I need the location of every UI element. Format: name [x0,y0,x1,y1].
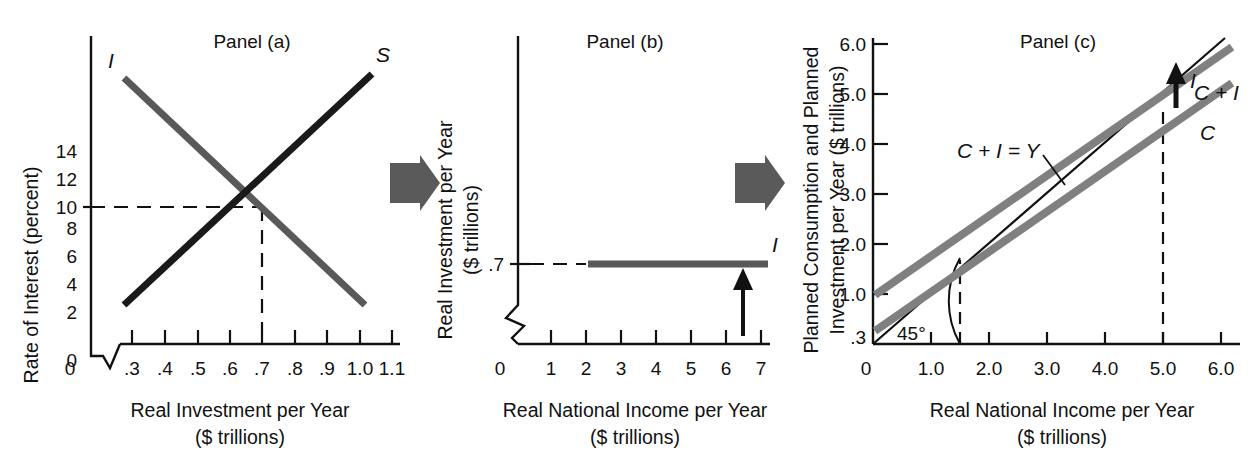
panel-b-axes [506,36,770,344]
panel-b-ytick-07: .7 [488,254,504,275]
panel-a-ytick-8: 8 [66,218,77,239]
panel-a-ytick-6: 6 [66,246,77,267]
panel-c-y-axis-title-line1: Planned Consumption and Planned [800,47,822,354]
panel-a-x-axis-title-line2: ($ trillions) [195,426,285,448]
panel-b-xtick-3: 3 [616,358,627,379]
panel-a-xtick-07: .7 [254,358,270,379]
panel-c-ytick-30: 3.0 [840,184,866,205]
panel-c-ytick-40: 4.0 [840,134,866,155]
panel-c-xtick-30: 3.0 [1034,358,1060,379]
panel-b-x-axis-title-line1: Real National Income per Year [503,399,768,421]
panel-a-title: Panel (a) [213,31,290,52]
panel-c-title: Panel (c) [1020,31,1096,52]
panel-a-ytick-10: 10 [56,197,77,218]
panel-a: Rate of Interest (percent) Panel (a) 0 2… [0,0,420,475]
panel-a-xtick-05: .5 [190,358,206,379]
panel-c-ytick-50: 5.0 [840,84,866,105]
panel-b-xtick-5: 5 [686,358,697,379]
panel-b-x-axis-title-line2: ($ trillions) [590,426,680,448]
panel-c-ci-curve-label: C + I [1194,81,1239,104]
panel-b-xtick-4: 4 [651,358,662,379]
panel-a-ytick-4: 4 [66,274,77,295]
panel-b-xtick-1: 1 [546,358,557,379]
panel-c-investment-gap-label: I [1190,69,1196,92]
panel-c: Planned Consumption and Planned Investme… [800,0,1256,475]
panel-b-xtick-2: 2 [581,358,592,379]
panel-a-saving-curve-label: S [376,43,390,66]
panel-c-xtick-20: 2.0 [976,358,1002,379]
panel-c-x-axis-title-line2: ($ trillions) [1017,426,1107,448]
panel-c-ytick-03: .3 [850,327,866,348]
panel-b-ytick-0: 0 [495,358,506,379]
panel-c-ytick-0: 0 [861,358,872,379]
panel-c-x-ticks: 1.0 2.0 3.0 4.0 5.0 6.0 [918,332,1234,379]
panel-c-ytick-20: 2.0 [840,234,866,255]
panel-a-ytick-14: 14 [56,141,78,162]
panel-b-y-axis-title-line2: ($ trillions) [460,185,482,275]
panel-c-equilibrium-line-label: C + I = Y [957,139,1041,162]
panel-a-ytick-2: 2 [66,302,77,323]
panel-a-xtick-04: .4 [157,358,173,379]
panel-a-xtick-08: .8 [287,358,303,379]
panel-a-xtick-03: .3 [124,358,140,379]
panel-c-consumption-curve-label: C [1200,121,1216,144]
three-panel-economics-figure: Rate of Interest (percent) Panel (a) 0 2… [0,0,1256,475]
panel-a-ytick-12: 12 [56,169,77,190]
panel-c-angle-label: 45° [897,323,926,344]
panel-c-xtick-40: 4.0 [1092,358,1118,379]
panel-b-y-ticks: .7 0 [488,254,530,379]
panel-a-xtick-0: 0 [65,358,76,379]
panel-c-consumption-curve [875,83,1232,331]
panel-c-xtick-50: 5.0 [1150,358,1176,379]
panel-b-x-ticks: 1 2 3 4 5 6 7 [546,330,767,379]
panel-a-y-ticks: 0 2 4 6 8 10 12 14 [56,141,91,371]
panel-c-ytick-10: 1.0 [840,284,866,305]
panel-a-xtick-09: .9 [319,358,335,379]
panel-b-y-axis-title-line1: Real Investment per Year [434,120,456,339]
panel-b-xtick-6: 6 [721,358,732,379]
flow-arrow-b-to-c [735,0,795,475]
panel-a-x-axis-title-line1: Real Investment per Year [131,399,350,421]
panel-a-xtick-06: .6 [222,358,238,379]
panel-a-investment-curve-label: I [108,49,114,72]
panel-a-equilibrium-guides [91,207,262,330]
panel-a-y-axis-title: Rate of Interest (percent) [20,167,42,384]
panel-a-xtick-10: 1.0 [347,358,373,379]
panel-c-xtick-60: 6.0 [1208,358,1234,379]
panel-c-xtick-10: 1.0 [918,358,944,379]
panel-b-title: Panel (b) [586,31,663,52]
right-arrow-icon [735,155,785,211]
panel-c-x-axis-title-line1: Real National Income per Year [930,399,1195,421]
panel-c-ytick-60: 6.0 [840,34,866,55]
